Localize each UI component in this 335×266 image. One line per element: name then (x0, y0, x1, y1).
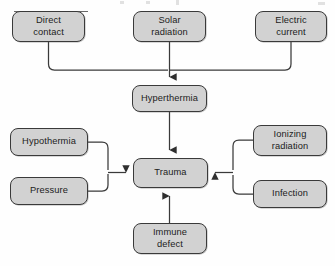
node-hyperthermia[interactable]: Hyperthermia (132, 85, 207, 112)
node-hypothermia[interactable]: Hypothermia (10, 128, 88, 156)
edge-ionizing-radiation-to-bus (233, 140, 253, 170)
node-label: Electric current (275, 15, 306, 38)
node-label: Solar radiation (151, 15, 188, 38)
edge-infection-to-bus (233, 175, 253, 194)
node-trauma[interactable]: Trauma (133, 158, 208, 188)
node-pressure[interactable]: Pressure (10, 177, 88, 205)
edge-direct-contact-to-bus (49, 42, 169, 70)
node-label: Hyperthermia (141, 93, 198, 105)
node-direct-contact[interactable]: Direct contact (12, 11, 85, 42)
node-label: Immune defect (153, 227, 187, 250)
node-label: Direct contact (33, 15, 64, 38)
node-infection[interactable]: Infection (253, 180, 327, 208)
node-electric-current[interactable]: Electric current (255, 11, 327, 42)
node-label: Hypothermia (22, 136, 76, 148)
node-label: Trauma (154, 167, 186, 179)
node-label: Infection (272, 188, 308, 200)
diagram-canvas: Direct contact Solar radiation Electric … (0, 0, 335, 266)
node-ionizing-radiation[interactable]: Ionizing radiation (253, 125, 327, 156)
edge-pressure-to-bus (88, 174, 108, 191)
node-solar-radiation[interactable]: Solar radiation (133, 11, 206, 42)
edge-electric-current-to-bus (170, 42, 291, 70)
node-label: Pressure (30, 185, 68, 197)
node-immune-defect[interactable]: Immune defect (133, 223, 207, 254)
node-label: Ionizing radiation (272, 129, 309, 152)
edge-hypothermia-to-bus (88, 142, 108, 170)
